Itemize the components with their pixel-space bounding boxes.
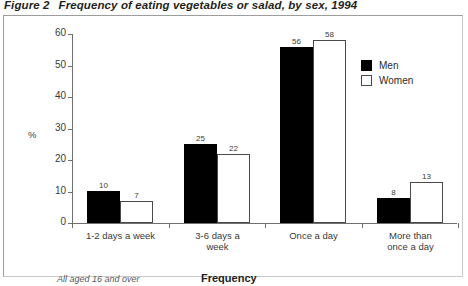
figure-caption: Frequency of eating vegetables or salad,…: [59, 0, 358, 11]
x-axis-title: Frequency: [201, 272, 257, 284]
bar-women: 22: [217, 154, 250, 223]
y-axis-tick-label: 20: [42, 153, 66, 164]
y-axis-tick: [68, 160, 73, 161]
legend-swatch-icon: [361, 75, 372, 86]
bar-women: 13: [410, 182, 443, 223]
legend-item-women: Women: [361, 73, 413, 88]
bar-value-label: 7: [134, 191, 138, 200]
bar-value-label: 13: [422, 172, 431, 181]
category-label-line: Once a day: [265, 230, 362, 241]
y-axis-tick-label: 10: [42, 185, 66, 196]
x-axis-category-label: Once a day: [265, 230, 362, 241]
legend-item-men: Men: [361, 58, 413, 73]
bar-women: 7: [120, 201, 153, 223]
chart-legend: MenWomen: [361, 58, 413, 88]
bar-value-label: 10: [99, 181, 108, 190]
y-axis-tick-label: 0: [42, 216, 66, 227]
category-label-line: once a day: [362, 241, 459, 252]
legend-label: Women: [379, 75, 413, 86]
bar-women: 58: [313, 40, 346, 223]
bar-value-label: 58: [325, 30, 334, 39]
x-axis-tick: [169, 223, 170, 228]
bar-men: 8: [377, 198, 410, 223]
chart-frame: % 0102030405060 10725225658813 1-2 days …: [3, 15, 463, 277]
category-label-line: 3-6 days a: [169, 230, 266, 241]
figure-title: Figure 2 Frequency of eating vegetables …: [4, 0, 357, 13]
y-axis-tick: [68, 66, 73, 67]
bar-value-label: 8: [391, 188, 395, 197]
bar-men: 56: [280, 47, 313, 223]
y-axis-tick: [68, 34, 73, 35]
x-axis-tick: [265, 223, 266, 228]
figure-number: Figure 2: [4, 0, 50, 11]
bar-value-label: 25: [196, 134, 205, 143]
bar-men: 25: [184, 144, 217, 223]
x-axis-category-label: 1-2 days a week: [72, 230, 169, 241]
x-axis-category-label: 3-6 days aweek: [169, 230, 266, 252]
x-axis-category-label: More thanonce a day: [362, 230, 459, 252]
category-label-line: More than: [362, 230, 459, 241]
y-axis-title: %: [28, 129, 36, 140]
bar-value-label: 22: [229, 144, 238, 153]
legend-swatch-icon: [361, 60, 372, 71]
y-axis-tick: [68, 129, 73, 130]
y-axis-tick-label: 40: [42, 90, 66, 101]
y-axis-tick: [68, 97, 73, 98]
figure-footnote: All aged 16 and over: [57, 274, 140, 284]
legend-label: Men: [379, 60, 398, 71]
x-axis-tick: [72, 223, 73, 228]
x-axis-tick: [362, 223, 363, 228]
bar-value-label: 56: [292, 37, 301, 46]
bar-men: 10: [87, 191, 120, 223]
y-axis-tick-label: 50: [42, 59, 66, 70]
y-axis-tick-label: 30: [42, 122, 66, 133]
category-label-line: 1-2 days a week: [72, 230, 169, 241]
x-axis-tick: [458, 223, 459, 228]
y-axis-tick-label: 60: [42, 27, 66, 38]
y-axis-tick: [68, 192, 73, 193]
category-label-line: week: [169, 241, 266, 252]
